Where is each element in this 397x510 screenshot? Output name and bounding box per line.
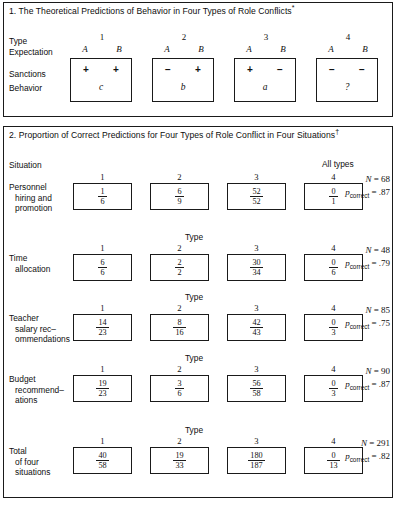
expectation-labels-1: A B bbox=[68, 44, 136, 54]
fraction-2: 3 6 bbox=[175, 379, 183, 398]
panel-1-row-label-behavior: Behavior bbox=[9, 83, 42, 93]
sanction-sign-b-4: − bbox=[359, 64, 365, 75]
fraction-denominator: 23 bbox=[96, 388, 108, 398]
fraction-numerator: 52 bbox=[250, 187, 262, 196]
proportion-box-2: 3 6 bbox=[150, 375, 209, 402]
statistic-n: N = 68 bbox=[304, 174, 394, 184]
row-label-line-1: Budget bbox=[9, 374, 36, 384]
panel-theoretical-predictions: 1. The Theoretical Predictions of Behavi… bbox=[3, 2, 393, 117]
column-number-1: 1 bbox=[73, 364, 132, 374]
panel-1-title-footnote-marker: * bbox=[292, 4, 295, 11]
fraction-denominator: 9 bbox=[175, 196, 183, 206]
n-symbol: N bbox=[365, 305, 371, 315]
fraction-denominator: 58 bbox=[96, 460, 108, 470]
row-label-teacher-salary: Teacher salary rec– ommendations bbox=[9, 313, 75, 345]
sanction-signs-4: − − bbox=[317, 64, 377, 75]
row-label-line-1: Time bbox=[9, 253, 27, 263]
type-header-row-5: Type bbox=[164, 425, 224, 435]
sanction-sign-b-3: − bbox=[277, 64, 283, 75]
row-label-line-1: Total bbox=[9, 446, 27, 456]
proportion-box-2: 6 9 bbox=[150, 183, 209, 210]
row-statistics: N = 291 pcorrect = .82 bbox=[304, 438, 394, 461]
statistic-p-correct: pcorrect = .87 bbox=[304, 379, 394, 389]
column-number-2: 2 bbox=[150, 436, 209, 446]
fraction-denominator: 2 bbox=[175, 267, 183, 277]
proportion-box-3: 42 43 bbox=[227, 314, 286, 341]
expectation-label-b-4: B bbox=[362, 44, 368, 54]
panel-1-title-text: 1. The Theoretical Predictions of Behavi… bbox=[9, 6, 292, 16]
fraction-denominator: 6 bbox=[98, 196, 106, 206]
fraction-numerator: 6 bbox=[98, 258, 106, 267]
predicted-behavior-2: b bbox=[153, 82, 213, 92]
p-subscript: correct bbox=[350, 384, 370, 391]
panel-1-row-label-type: Type bbox=[9, 36, 27, 46]
panel-2-title: 2. Proportion of Correct Predictions for… bbox=[9, 130, 339, 140]
expectation-label-b-1: B bbox=[116, 44, 122, 54]
sanction-sign-a-3: + bbox=[247, 64, 253, 75]
fraction-3: 30 34 bbox=[250, 258, 262, 277]
conflict-box-4: − − ? bbox=[316, 58, 378, 102]
sanction-sign-b-2: + bbox=[195, 64, 201, 75]
fraction-3: 56 58 bbox=[250, 379, 262, 398]
expectation-label-a-1: A bbox=[82, 44, 88, 54]
fraction-denominator: 23 bbox=[96, 327, 108, 337]
proportion-box-3: 56 58 bbox=[227, 375, 286, 402]
row-label-line-3: situations bbox=[9, 467, 75, 478]
predicted-behavior-4: ? bbox=[317, 82, 377, 92]
p-value: .87 bbox=[379, 379, 390, 389]
panel-2-title-footnote-marker: † bbox=[335, 128, 339, 135]
panel-proportion-correct-predictions: 2. Proportion of Correct Predictions for… bbox=[3, 126, 393, 498]
conflict-box-3: + − a bbox=[234, 58, 296, 102]
expectation-label-a-4: A bbox=[328, 44, 334, 54]
column-number-1: 1 bbox=[73, 172, 132, 182]
table-row-budget-recommendations: Type Budget recommend– ations 1 19 23 2 bbox=[4, 353, 394, 413]
statistic-p-correct: pcorrect = .82 bbox=[304, 451, 394, 461]
conflict-type-number-3: 3 bbox=[232, 32, 300, 42]
predicted-behavior-3: a bbox=[235, 82, 295, 92]
column-number-3: 3 bbox=[227, 172, 286, 182]
proportion-box-3: 180 187 bbox=[227, 447, 286, 474]
row-label-line-1: Teacher bbox=[9, 313, 39, 323]
row-statistics: N = 90 pcorrect = .87 bbox=[304, 366, 394, 389]
fraction-denominator: 13 bbox=[327, 460, 339, 470]
proportion-box-1: 14 23 bbox=[73, 314, 132, 341]
row-label-line-2: hiring and bbox=[9, 193, 75, 204]
n-value: 48 bbox=[381, 245, 390, 255]
row-label-total: Total of four situations bbox=[9, 446, 75, 478]
panel-1-row-label-expectation: Expectation bbox=[9, 47, 53, 57]
row-label-line-2: salary rec– bbox=[9, 324, 75, 335]
p-subscript: correct bbox=[350, 263, 370, 270]
expectation-label-a-2: A bbox=[164, 44, 170, 54]
statistic-n: N = 48 bbox=[304, 245, 394, 255]
row-label-line-2: recommend– bbox=[9, 385, 75, 396]
fraction-2: 6 9 bbox=[175, 187, 183, 206]
fraction-denominator: 187 bbox=[248, 460, 264, 470]
fraction-1: 6 6 bbox=[98, 258, 106, 277]
fraction-denominator: 6 bbox=[329, 267, 337, 277]
column-number-2: 2 bbox=[150, 243, 209, 253]
p-value: .79 bbox=[379, 258, 390, 268]
p-value: .87 bbox=[379, 187, 390, 197]
row-statistics: N = 48 pcorrect = .79 bbox=[304, 245, 394, 268]
fraction-denominator: 3 bbox=[329, 388, 337, 398]
n-value: 85 bbox=[381, 305, 390, 315]
predicted-behavior-1: c bbox=[71, 82, 131, 92]
statistic-n: N = 85 bbox=[304, 305, 394, 315]
fraction-3: 180 187 bbox=[248, 451, 264, 470]
row-label-line-3: promotion bbox=[9, 203, 75, 214]
panel-2-title-text: 2. Proportion of Correct Predictions for… bbox=[9, 130, 335, 140]
n-value: 291 bbox=[377, 438, 391, 448]
column-number-3: 3 bbox=[227, 243, 286, 253]
conflict-type-number-1: 1 bbox=[68, 32, 136, 42]
row-label-line-1: Personnel bbox=[9, 182, 47, 192]
expectation-label-b-2: B bbox=[198, 44, 204, 54]
fraction-numerator: 6 bbox=[175, 187, 183, 196]
fraction-1: 19 23 bbox=[96, 379, 108, 398]
statistic-n: N = 291 bbox=[304, 438, 394, 448]
proportion-box-3: 30 34 bbox=[227, 254, 286, 281]
sanction-sign-a-1: + bbox=[83, 64, 89, 75]
statistic-n: N = 90 bbox=[304, 366, 394, 376]
type-header-row-2: Type bbox=[164, 232, 224, 242]
proportion-box-1: 19 23 bbox=[73, 375, 132, 402]
fraction-1: 14 23 bbox=[96, 318, 108, 337]
